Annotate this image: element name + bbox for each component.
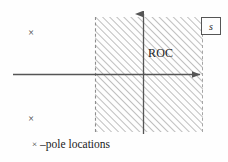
plane-label-text: s bbox=[202, 18, 220, 34]
legend-label: –pole locations bbox=[40, 139, 110, 151]
roc-label: ROC bbox=[148, 47, 173, 59]
legend-pole-icon: × bbox=[32, 140, 37, 149]
plane-canvas bbox=[0, 0, 228, 162]
pole-marker-upper-left: × bbox=[28, 28, 34, 38]
pole-marker-lower-left: × bbox=[28, 114, 34, 124]
legend: × –pole locations bbox=[32, 139, 110, 151]
plane-label-box: s bbox=[201, 17, 221, 35]
s-plane-roc-figure: ROC s × × × –pole locations bbox=[0, 0, 228, 162]
